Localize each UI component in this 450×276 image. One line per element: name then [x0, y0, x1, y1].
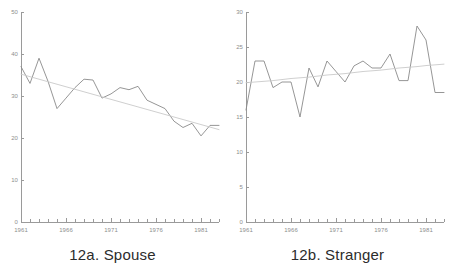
trend-line-path	[21, 74, 219, 129]
y-tick-label: 20	[236, 79, 243, 85]
x-tick-label: 1981	[419, 227, 433, 233]
spouse-caption: 12a. Spouse	[0, 246, 225, 263]
chart-panel-stranger: 05101520253019611966197119761981 12b. St…	[225, 0, 450, 276]
y-tick-label: 30	[236, 9, 243, 15]
y-tick-label: 50	[11, 9, 18, 15]
y-tick-label: 15	[236, 114, 243, 120]
y-tick-label: 0	[240, 219, 244, 225]
y-tick-label: 20	[11, 135, 18, 141]
x-tick-label: 1961	[239, 227, 253, 233]
y-tick-label: 0	[15, 219, 19, 225]
x-tick-label: 1971	[329, 227, 343, 233]
x-tick-label: 1966	[284, 227, 298, 233]
y-tick-label: 30	[11, 93, 18, 99]
y-tick-label: 10	[236, 149, 243, 155]
x-tick-label: 1976	[374, 227, 388, 233]
data-line-path	[246, 26, 444, 117]
y-tick-label: 40	[11, 51, 18, 57]
y-tick-label: 10	[11, 177, 18, 183]
stranger-plot-svg: 05101520253019611966197119761981	[225, 0, 450, 246]
x-tick-label: 1981	[194, 227, 208, 233]
y-tick-label: 25	[236, 44, 243, 50]
data-line-path	[21, 58, 219, 136]
stranger-caption: 12b. Stranger	[225, 246, 450, 263]
x-tick-label: 1976	[149, 227, 163, 233]
figure-12-root: 0102030405019611966197119761981 12a. Spo…	[0, 0, 450, 276]
spouse-plot-svg: 0102030405019611966197119761981	[0, 0, 225, 246]
chart-panel-spouse: 0102030405019611966197119761981 12a. Spo…	[0, 0, 225, 276]
x-tick-label: 1966	[59, 227, 73, 233]
y-tick-label: 5	[240, 184, 244, 190]
x-tick-label: 1961	[14, 227, 28, 233]
trend-line-path	[246, 64, 444, 83]
x-tick-label: 1971	[104, 227, 118, 233]
